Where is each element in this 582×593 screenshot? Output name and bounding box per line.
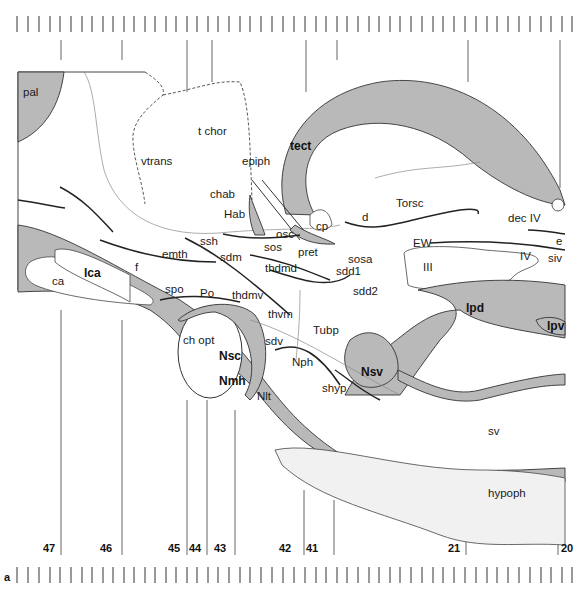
section-number-44: 44 <box>189 542 202 554</box>
label-sv: sv <box>488 425 500 437</box>
label-Hab: Hab <box>224 208 245 220</box>
label-III: III <box>423 261 433 273</box>
label-thdmv: thdmv <box>232 289 264 301</box>
label-ca: ca <box>52 275 65 287</box>
label-chab: chab <box>210 188 235 200</box>
label-sdm: sdm <box>220 251 242 263</box>
label-lca: lca <box>84 266 101 280</box>
label-thvm: thvm <box>268 308 293 320</box>
label-tect: tect <box>290 139 311 153</box>
label-Nsc: Nsc <box>219 349 241 363</box>
label-emth: emth <box>162 248 188 260</box>
label-d: d <box>362 211 368 223</box>
tect-region <box>282 80 565 215</box>
label-Tubp: Tubp <box>313 324 339 336</box>
label-Nph: Nph <box>292 356 313 368</box>
label-Nsv: Nsv <box>361 365 383 379</box>
section-number-43: 43 <box>214 542 226 554</box>
label-sdd2: sdd2 <box>353 285 378 297</box>
label-sosa: sosa <box>348 253 373 265</box>
label-sdv: sdv <box>265 335 283 347</box>
label-Nmh: Nmh <box>219 374 246 388</box>
label-ssh: ssh <box>200 235 218 247</box>
label-e: e <box>556 235 562 247</box>
label-Torsc: Torsc <box>396 197 424 209</box>
label-dec-IV: dec IV <box>508 212 541 224</box>
section-number-47: 47 <box>43 542 55 554</box>
label-Po: Po <box>200 287 214 299</box>
brain-section-diagram: pal vtrans t chor epiph tect chab Hab cp… <box>0 0 582 593</box>
panel-letter: a <box>4 571 11 583</box>
label-t-chor: t chor <box>198 125 227 137</box>
label-IV: IV <box>520 250 531 262</box>
section-number-46: 46 <box>100 542 112 554</box>
section-number-21: 21 <box>448 542 460 554</box>
label-spo: spo <box>165 283 184 295</box>
label-pal: pal <box>23 86 38 98</box>
section-number-41: 41 <box>306 542 318 554</box>
label-f: f <box>135 261 139 273</box>
label-shyp: shyp <box>322 382 346 394</box>
label-siv: siv <box>548 252 562 264</box>
bottom-ruler <box>17 567 572 583</box>
pal-region <box>18 72 64 142</box>
label-osc: osc <box>276 228 294 240</box>
label-lpv: lpv <box>547 319 565 333</box>
label-cp: cp <box>316 220 328 232</box>
label-vtrans: vtrans <box>141 155 173 167</box>
label-thdmd: thdmd <box>265 262 297 274</box>
label-sos: sos <box>264 241 282 253</box>
label-EW: EW <box>413 237 432 249</box>
section-number-20: 20 <box>561 542 573 554</box>
label-epiph: epiph <box>242 155 270 167</box>
Nsv-region <box>345 333 398 388</box>
label-lpd: lpd <box>466 301 484 315</box>
label-ch-opt: ch opt <box>183 334 215 346</box>
label-hypoph: hypoph <box>488 487 526 499</box>
section-number-45: 45 <box>168 542 180 554</box>
label-pret: pret <box>298 246 319 258</box>
top-ruler <box>17 16 572 32</box>
section-number-42: 42 <box>279 542 291 554</box>
label-Nlt: Nlt <box>257 390 272 402</box>
label-sdd1: sdd1 <box>336 265 361 277</box>
